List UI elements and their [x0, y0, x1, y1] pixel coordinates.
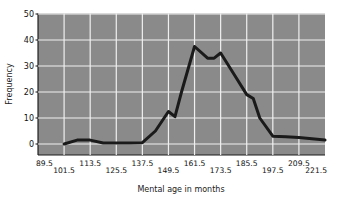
y-axis-title: Frequency: [5, 63, 14, 105]
chart-figure: 89.5101.5113.5125.5137.5149.5161.5173.51…: [0, 0, 350, 198]
x-tick-label: 137.5: [131, 159, 153, 168]
x-tick-label: 149.5: [158, 166, 180, 175]
y-tick-label: 50: [24, 10, 34, 19]
x-tick-label: 125.5: [105, 166, 127, 175]
plot-area: [38, 14, 325, 156]
y-tick-label: 30: [24, 62, 34, 71]
x-tick-label: 89.5: [36, 159, 53, 168]
frequency-polygon-chart: 89.5101.5113.5125.5137.5149.5161.5173.51…: [0, 0, 350, 198]
plot-background: [38, 14, 325, 156]
y-tick-label: 10: [24, 114, 34, 123]
x-tick-label: 101.5: [53, 166, 75, 175]
x-tick-label: 185.5: [236, 159, 258, 168]
x-tick-label: 221.5: [305, 166, 327, 175]
x-tick-label: 113.5: [79, 159, 101, 168]
y-tick-label: 0: [29, 140, 34, 149]
y-tick-label: 20: [24, 88, 34, 97]
x-tick-label: 173.5: [210, 166, 232, 175]
x-tick-label: 161.5: [184, 159, 206, 168]
x-axis-title: Mental age in months: [137, 185, 224, 194]
y-tick-label: 40: [24, 36, 34, 45]
x-tick-label: 197.5: [262, 166, 284, 175]
